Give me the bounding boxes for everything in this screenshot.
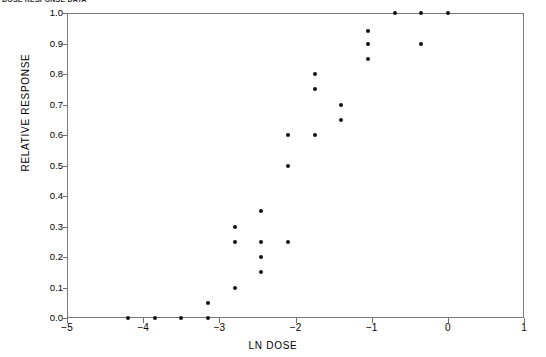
data-point xyxy=(339,103,343,107)
data-point xyxy=(286,164,290,168)
data-point xyxy=(366,29,370,33)
data-point xyxy=(419,11,423,15)
x-tick-label: 0 xyxy=(428,322,468,333)
chart-canvas: DOSE RESPONSE DATA 0.00.10.20.30.40.50.6… xyxy=(0,0,546,357)
y-axis-title: RELATIVE RESPONSE xyxy=(20,28,31,198)
data-point xyxy=(313,133,317,137)
data-point xyxy=(366,42,370,46)
x-tick-mark xyxy=(219,318,220,323)
data-point xyxy=(233,240,237,244)
data-point xyxy=(259,270,263,274)
x-tick-label: −1 xyxy=(352,322,392,333)
data-point xyxy=(419,42,423,46)
data-point xyxy=(286,133,290,137)
x-tick-label: −3 xyxy=(199,322,239,333)
x-tick-mark xyxy=(296,318,297,323)
x-tick-mark xyxy=(448,318,449,323)
x-tick-label: −2 xyxy=(276,322,316,333)
x-tick-label: −4 xyxy=(123,322,163,333)
x-tick-label: 1 xyxy=(504,322,544,333)
data-point xyxy=(153,316,157,320)
x-tick-mark xyxy=(143,318,144,323)
data-point xyxy=(206,301,210,305)
x-tick-label: −5 xyxy=(47,322,87,333)
data-point xyxy=(259,209,263,213)
data-point xyxy=(179,316,183,320)
x-tick-mark xyxy=(67,318,68,323)
data-point xyxy=(233,286,237,290)
data-point xyxy=(366,57,370,61)
data-point xyxy=(233,225,237,229)
x-axis-title: LN DOSE xyxy=(0,340,546,351)
x-tick-mark xyxy=(524,318,525,323)
plot-area xyxy=(67,13,524,318)
data-point xyxy=(126,316,130,320)
data-point xyxy=(446,11,450,15)
data-point xyxy=(393,11,397,15)
x-tick-mark xyxy=(372,318,373,323)
data-point xyxy=(259,255,263,259)
data-point xyxy=(339,118,343,122)
data-point xyxy=(286,240,290,244)
data-point xyxy=(313,72,317,76)
data-point xyxy=(313,87,317,91)
data-point xyxy=(259,240,263,244)
data-point xyxy=(206,316,210,320)
